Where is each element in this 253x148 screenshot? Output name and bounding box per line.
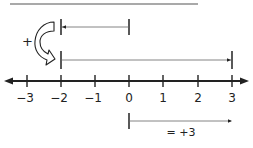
tick-label: 1 [159,92,167,104]
curved-arrow-icon [35,22,55,65]
tick-label: 3 [228,92,236,104]
arrow-left-icon [62,25,66,28]
segment-second-addend [61,51,232,69]
tick-label: 0 [125,92,133,104]
tick-label: −1 [84,92,102,104]
tick-label: −2 [50,92,68,104]
segment-first-addend [61,19,129,35]
result-label: = +3 [167,127,196,138]
axis-arrow-right-icon [240,78,249,85]
number-line-diagram [0,0,253,148]
arrow-right-icon [227,58,231,61]
axis-arrow-left-icon [4,78,13,85]
number-line-axis [4,75,249,87]
tick-label: 2 [194,92,202,104]
plus-sign: + [22,35,33,48]
tick-label: −3 [16,92,34,104]
arrow-right-icon [228,119,232,122]
